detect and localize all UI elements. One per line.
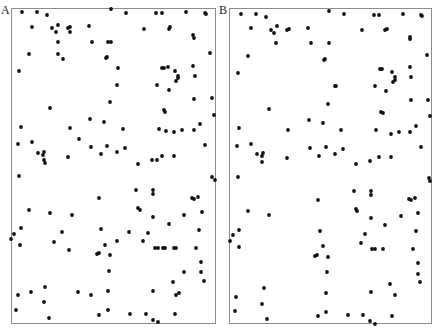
data-point: [269, 28, 273, 32]
data-point: [342, 12, 346, 16]
data-point: [172, 154, 176, 158]
data-point: [109, 40, 113, 44]
data-point: [401, 12, 405, 16]
data-point: [321, 121, 325, 125]
data-point: [107, 269, 111, 273]
data-point: [52, 240, 56, 244]
data-point: [249, 26, 253, 30]
data-point: [99, 227, 103, 231]
data-point: [369, 193, 373, 197]
data-point: [173, 312, 177, 316]
data-point: [144, 312, 148, 316]
data-point: [199, 270, 203, 274]
data-point: [76, 290, 80, 294]
data-point: [352, 189, 356, 193]
data-point: [115, 239, 119, 243]
data-point: [121, 127, 125, 131]
data-point: [146, 231, 150, 235]
data-point: [246, 54, 250, 58]
data-point: [68, 126, 72, 130]
data-point: [388, 282, 392, 286]
data-point: [105, 144, 109, 148]
data-point: [192, 197, 196, 201]
data-point: [341, 147, 345, 151]
data-point: [30, 25, 34, 29]
data-point: [428, 114, 432, 118]
data-point: [212, 113, 216, 117]
data-point: [236, 175, 240, 179]
data-point: [316, 198, 320, 202]
data-point: [265, 317, 269, 321]
data-point: [17, 174, 21, 178]
data-point: [151, 192, 155, 196]
data-point: [272, 31, 276, 35]
data-point: [377, 155, 381, 159]
data-point: [191, 64, 195, 68]
data-point: [368, 159, 372, 163]
data-point: [87, 24, 91, 28]
data-point: [389, 132, 393, 136]
data-point: [203, 143, 207, 147]
data-point: [383, 223, 387, 227]
data-point: [308, 146, 312, 150]
data-point: [14, 308, 18, 312]
data-point: [235, 144, 239, 148]
data-point: [390, 314, 394, 318]
data-point: [391, 80, 395, 84]
data-point: [418, 280, 422, 284]
data-point: [182, 213, 186, 217]
data-point: [192, 36, 196, 40]
data-point: [200, 210, 204, 214]
data-point: [360, 28, 364, 32]
data-point: [416, 211, 420, 215]
data-point: [123, 146, 127, 150]
data-point: [393, 293, 397, 297]
data-point: [399, 214, 403, 218]
data-point: [274, 41, 278, 45]
data-point: [373, 84, 377, 88]
data-point: [381, 247, 385, 251]
data-point: [68, 30, 72, 34]
data-point: [327, 41, 331, 45]
data-point: [16, 293, 20, 297]
data-point: [192, 128, 196, 132]
data-point: [315, 253, 319, 257]
data-point: [354, 162, 358, 166]
data-point: [306, 26, 310, 30]
data-point: [324, 310, 328, 314]
data-point: [321, 244, 325, 248]
data-point: [373, 247, 377, 251]
data-point: [177, 291, 181, 295]
data-point: [408, 37, 412, 41]
data-point: [50, 26, 54, 30]
data-point: [198, 122, 202, 126]
data-point: [97, 251, 101, 255]
data-point: [17, 69, 21, 73]
data-point: [163, 110, 167, 114]
data-point: [155, 83, 159, 87]
data-point: [390, 70, 394, 74]
data-point: [381, 111, 385, 115]
data-point: [249, 142, 253, 146]
data-point: [115, 83, 119, 87]
data-point: [420, 14, 424, 18]
data-point: [160, 11, 164, 15]
data-point: [60, 230, 64, 234]
data-point: [409, 198, 413, 202]
data-point: [318, 229, 322, 233]
data-point: [151, 188, 155, 192]
data-point: [286, 128, 290, 132]
data-point: [164, 129, 168, 133]
data-point: [19, 226, 23, 230]
data-point: [151, 289, 155, 293]
data-point: [108, 100, 112, 104]
data-point: [199, 260, 203, 264]
data-point: [411, 247, 415, 251]
data-point: [397, 130, 401, 134]
data-point: [43, 285, 47, 289]
panel-a-points: [9, 7, 217, 324]
data-point: [231, 233, 235, 237]
data-point: [416, 261, 420, 265]
data-point: [373, 322, 377, 326]
data-point: [210, 175, 214, 179]
